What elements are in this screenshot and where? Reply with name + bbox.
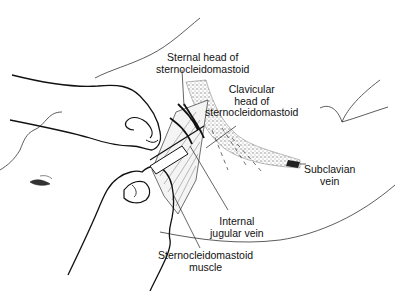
shoulder-outline (160, 185, 395, 242)
clavicle-outline (320, 80, 388, 122)
right-hand-thumb (124, 181, 150, 202)
right-hand-knuckle (132, 185, 136, 197)
leader-sternal-head (182, 70, 184, 106)
patient-face (0, 112, 62, 170)
label-internal-jugular-vein: Internal jugular vein (210, 216, 264, 239)
leader-scm-muscle (174, 196, 200, 248)
left-hand-palpating (10, 75, 161, 150)
patient-eyebrow (40, 176, 52, 179)
left-hand-thumb (125, 118, 152, 139)
label-sternocleidomastoid-muscle: Sternocleidomastoid muscle (158, 250, 253, 273)
label-sternal-head: Sternal head of sternocleidomastoid (156, 52, 249, 75)
label-subclavian-vein: Subclavian vein (304, 164, 355, 187)
anatomy-illustration: Sternal head of sternocleidomastoid Clav… (0, 0, 395, 291)
label-clavicular-head: Clavicular head of sternocleidomastoid (205, 84, 298, 119)
patient-eye-icon (30, 180, 50, 185)
illustration-drawing (0, 0, 395, 291)
left-hand-fingernail (146, 140, 158, 142)
